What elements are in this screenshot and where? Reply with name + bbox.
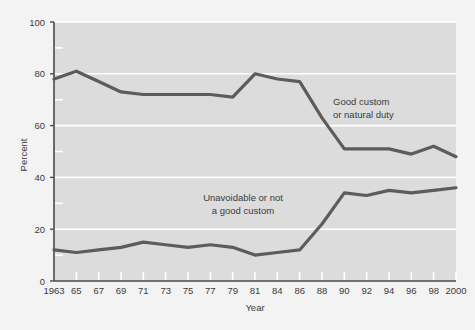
annotation-unavoidable-line2: a good custom bbox=[212, 205, 274, 216]
x-axis-title: Year bbox=[245, 302, 264, 313]
x-tick-label: 75 bbox=[183, 285, 194, 296]
y-tick-label: 20 bbox=[34, 224, 45, 235]
x-tick-label: 90 bbox=[339, 285, 350, 296]
y-tick-label: 60 bbox=[34, 120, 45, 131]
x-tick-label: 2000 bbox=[445, 285, 466, 296]
y-tick-label: 100 bbox=[29, 17, 45, 28]
annotation-good-custom-line2: or natural duty bbox=[333, 109, 394, 120]
x-tick-label: 67 bbox=[93, 285, 104, 296]
x-tick-label: 65 bbox=[71, 285, 82, 296]
x-tick-label: 73 bbox=[160, 285, 171, 296]
y-tick-label: 80 bbox=[34, 68, 45, 79]
x-tick-label: 92 bbox=[361, 285, 372, 296]
x-tick-label: 77 bbox=[205, 285, 216, 296]
x-tick-label: 96 bbox=[406, 285, 417, 296]
annotation-good-custom-line1: Good custom bbox=[333, 96, 390, 107]
x-tick-label: 71 bbox=[138, 285, 149, 296]
line-chart: 020406080100 196365676971737577798184868… bbox=[0, 0, 475, 330]
x-tick-label: 84 bbox=[272, 285, 283, 296]
x-tick-label: 88 bbox=[317, 285, 328, 296]
annotation-unavoidable-line1: Unavoidable or not bbox=[203, 192, 283, 203]
x-tick-label: 98 bbox=[428, 285, 439, 296]
x-tick-label: 1963 bbox=[43, 285, 64, 296]
x-tick-label: 94 bbox=[384, 285, 395, 296]
x-tick-label: 79 bbox=[227, 285, 238, 296]
chart-container: 020406080100 196365676971737577798184868… bbox=[0, 0, 475, 330]
x-tick-label: 81 bbox=[250, 285, 261, 296]
y-axis-title: Percent bbox=[18, 138, 29, 171]
y-tick-label: 40 bbox=[34, 172, 45, 183]
x-tick-label: 69 bbox=[116, 285, 127, 296]
x-tick-label: 86 bbox=[294, 285, 305, 296]
